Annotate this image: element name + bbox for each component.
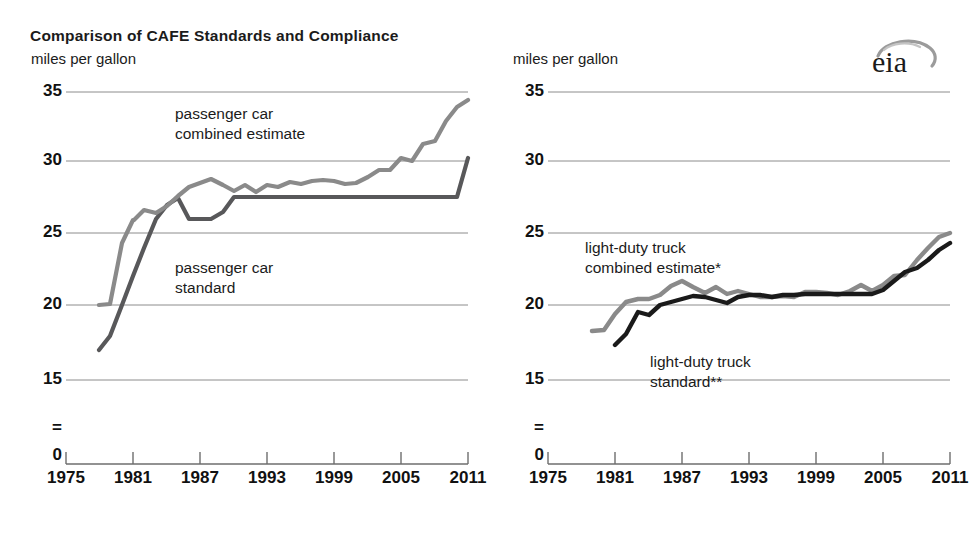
annotation-line-1: passenger car [175, 258, 273, 278]
annotation-line-1: passenger car [175, 104, 305, 124]
y-tick-25-right: 25 [504, 222, 544, 242]
x-tick-1981-left: 1981 [98, 468, 168, 488]
chart-panel-right: miles per gallon [482, 0, 964, 539]
x-tick-1993-right: 1993 [714, 468, 784, 488]
y-tick-0-right: 0 [504, 445, 544, 465]
annotation-line-2: combined estimate [175, 124, 305, 144]
x-tick-1999-left: 1999 [299, 468, 369, 488]
x-tick-2005-right: 2005 [848, 468, 918, 488]
y-tick-35-left: 35 [22, 81, 62, 101]
y-tick-30-right: 30 [504, 150, 544, 170]
plot-area-right [482, 0, 964, 539]
x-tick-1975-right: 1975 [513, 468, 583, 488]
y-tick-20-right: 20 [504, 294, 544, 314]
x-tick-1993-left: 1993 [232, 468, 302, 488]
x-tick-2005-left: 2005 [366, 468, 436, 488]
annotation-line-2: standard** [650, 372, 751, 392]
annotation-line-1: light-duty truck [585, 238, 721, 258]
x-tick-1999-right: 1999 [781, 468, 851, 488]
x-tick-1987-right: 1987 [647, 468, 717, 488]
x-tick-1975-left: 1975 [31, 468, 101, 488]
annotation-passenger-car-standard: passenger car standard [175, 258, 273, 298]
y-tick-25-left: 25 [22, 222, 62, 242]
annotation-line-2: standard [175, 278, 273, 298]
x-tick-1981-right: 1981 [580, 468, 650, 488]
x-tick-1987-left: 1987 [165, 468, 235, 488]
y-tick-35-right: 35 [504, 81, 544, 101]
annotation-truck-estimate: light-duty truck combined estimate* [585, 238, 721, 278]
y-axis-break-left: = [22, 418, 62, 438]
y-tick-30-left: 30 [22, 150, 62, 170]
y-tick-15-left: 15 [22, 369, 62, 389]
annotation-passenger-car-estimate: passenger car combined estimate [175, 104, 305, 144]
annotation-truck-standard: light-duty truck standard** [650, 352, 751, 392]
y-tick-20-left: 20 [22, 294, 62, 314]
y-axis-break-right: = [504, 418, 544, 438]
x-tick-2011-right: 2011 [915, 468, 973, 488]
y-tick-15-right: 15 [504, 369, 544, 389]
y-tick-0-left: 0 [22, 445, 62, 465]
annotation-line-2: combined estimate* [585, 258, 721, 278]
chart-panel-left: miles per gallon [0, 0, 482, 539]
annotation-line-1: light-duty truck [650, 352, 751, 372]
